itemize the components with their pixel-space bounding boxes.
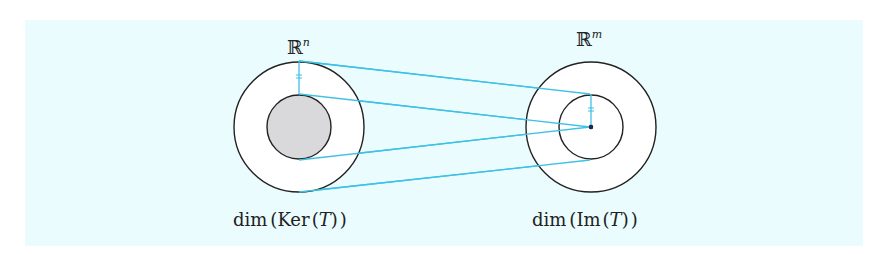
codomain-label: ℝm [576,28,602,50]
image-dimension-caption: dim(Im(T)) [532,209,638,230]
kernel-disk [267,95,331,159]
rank-nullity-diagram: ℝn ℝm dim(Ker(T)) dim(Im(T)) [0,0,893,254]
kernel-dimension-caption: dim(Ker(T)) [233,209,347,230]
domain-label: ℝn [287,36,310,58]
